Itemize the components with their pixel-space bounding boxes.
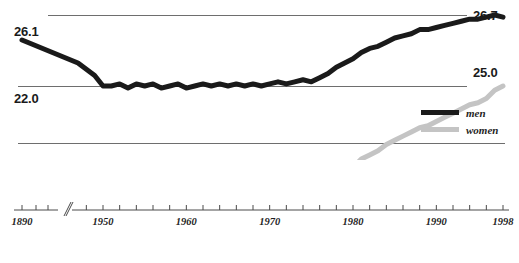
legend-item-men: men	[421, 104, 513, 121]
legend-item-women: women	[421, 121, 513, 138]
legend-swatch-women	[421, 127, 459, 132]
x-tick-label-1960: 1960	[176, 216, 197, 227]
series-line-men	[22, 15, 503, 88]
x-tick-label-1990: 1990	[426, 216, 447, 227]
legend-label-women: women	[466, 124, 498, 136]
x-axis	[0, 188, 519, 218]
legend-swatch-men	[421, 110, 459, 115]
x-tick-label-1950: 1950	[93, 216, 114, 227]
x-tick-label-1970: 1970	[259, 216, 280, 227]
x-axis-geometry	[14, 202, 509, 216]
x-tick-label-1998: 1998	[493, 216, 514, 227]
legend: men women	[421, 104, 513, 138]
x-tick-label-1890: 1890	[12, 216, 33, 227]
chart-container: 26.1 22.0 26.7 25.0 men women 1890195019…	[0, 0, 519, 263]
legend-label-men: men	[466, 107, 486, 119]
x-tick-label-1980: 1980	[343, 216, 364, 227]
